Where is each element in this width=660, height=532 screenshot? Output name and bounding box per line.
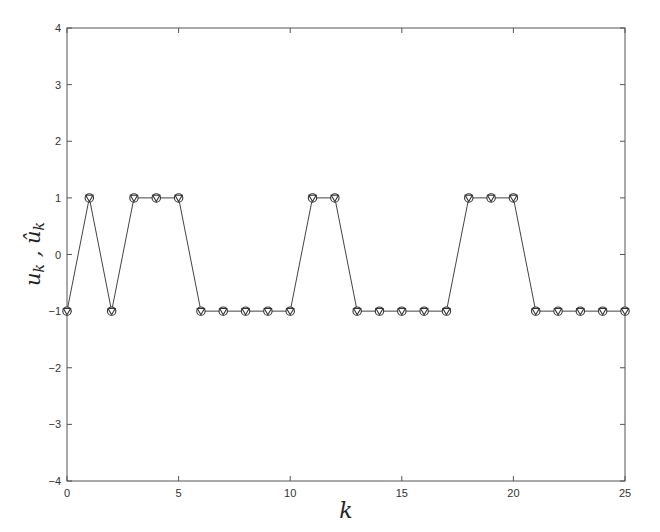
y-label-u-sub: k bbox=[31, 264, 47, 272]
x-tick-label: 10 bbox=[284, 487, 296, 499]
y-tick-label: −2 bbox=[48, 362, 61, 374]
x-tick-label: 0 bbox=[64, 487, 70, 499]
y-tick-label: −3 bbox=[48, 418, 61, 430]
y-tick-label: 4 bbox=[55, 22, 61, 34]
x-tick-label: 5 bbox=[176, 487, 182, 499]
x-axis-label: k bbox=[339, 498, 352, 523]
svg-text:uk , ûk: uk , ûk bbox=[21, 222, 47, 286]
y-label-sep: , bbox=[21, 244, 45, 264]
x-tick-label: 25 bbox=[619, 487, 631, 499]
y-label-uhat: û bbox=[21, 230, 45, 244]
x-tick-label: 20 bbox=[507, 487, 519, 499]
y-tick-label: 2 bbox=[55, 135, 61, 147]
y-label-u: u bbox=[21, 273, 45, 287]
y-label-uhat-sub: k bbox=[31, 222, 47, 230]
y-tick-label: −4 bbox=[48, 475, 61, 487]
x-tick-label: 15 bbox=[396, 487, 408, 499]
y-tick-label: 0 bbox=[55, 249, 61, 261]
y-tick-label: −1 bbox=[48, 305, 61, 317]
y-axis-label: uk , ûk bbox=[21, 222, 47, 286]
y-tick-label: 3 bbox=[55, 79, 61, 91]
chart: 0510152025 −4−3−2−101234 k uk , ûk bbox=[0, 0, 660, 532]
y-tick-label: 1 bbox=[55, 192, 61, 204]
